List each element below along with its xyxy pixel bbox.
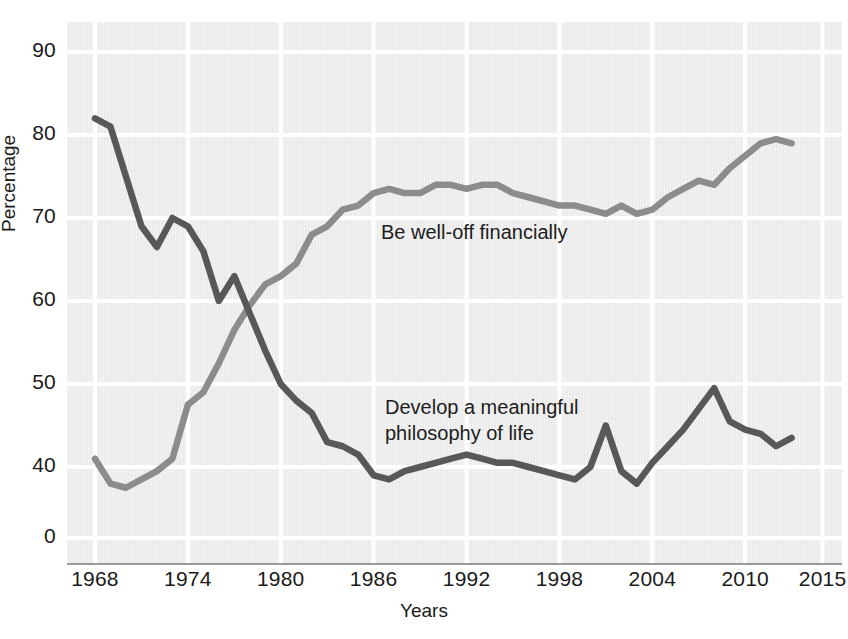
x-tick-label-1980: 1980 xyxy=(257,567,305,591)
x-tick-label-2004: 2004 xyxy=(629,567,677,591)
series-label-be-well-off-financially: Be well-off financially xyxy=(381,219,567,245)
y-tick-label-60: 60 xyxy=(32,287,56,311)
y-tick-label-90: 90 xyxy=(32,38,56,62)
y-tick-label-0: 0 xyxy=(44,524,56,548)
series-lines xyxy=(67,22,842,563)
y-axis-title: Percentage xyxy=(0,135,20,232)
x-tick-label-2010: 2010 xyxy=(721,567,769,591)
x-tick-label-1968: 1968 xyxy=(71,567,119,591)
y-tick-label-80: 80 xyxy=(32,121,56,145)
x-tick-label-1992: 1992 xyxy=(443,567,491,591)
x-tick-label-1998: 1998 xyxy=(536,567,584,591)
x-tick-label-2015: 2015 xyxy=(799,567,847,591)
y-tick-label-70: 70 xyxy=(32,204,56,228)
y-tick-label-50: 50 xyxy=(32,370,56,394)
chart-root: 9080706050400 19681974198019861992199820… xyxy=(0,0,848,639)
x-axis-title: Years xyxy=(0,600,848,622)
plot-area xyxy=(67,22,842,563)
x-axis-line xyxy=(67,563,842,565)
x-tick-label-1986: 1986 xyxy=(350,567,398,591)
y-tick-label-40: 40 xyxy=(32,453,56,477)
series-label-develop-meaningful-philosophy: Develop a meaningful philosophy of life xyxy=(385,394,578,446)
x-tick-label-1974: 1974 xyxy=(164,567,212,591)
